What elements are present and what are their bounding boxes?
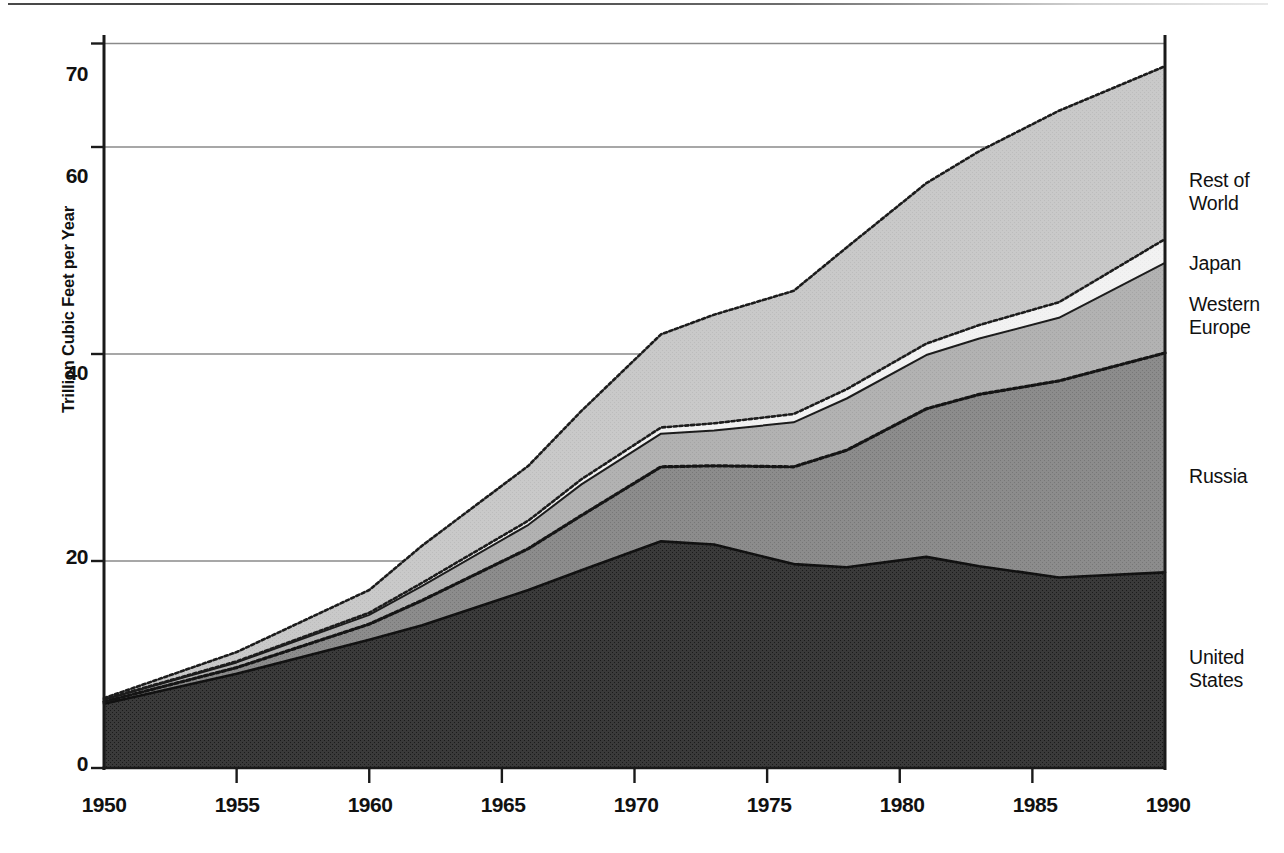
x-tick-label-1975: 1975 [724,793,814,817]
y-tick-label-60: 60 [28,164,88,188]
stacked-areas [104,66,1165,768]
x-tick-label-1960: 1960 [325,793,415,817]
x-tick-label-1980: 1980 [857,793,947,817]
x-tick-label-1950: 1950 [59,793,149,817]
chart-page: Trillion Cubic Feet per Year 70 60 40 20… [0,0,1284,853]
stacked-area-chart: Trillion Cubic Feet per Year 70 60 40 20… [0,0,1284,853]
series-label-united-states: United States [1189,646,1244,692]
x-tick-label-1985: 1985 [990,793,1080,817]
series-label-russia: Russia [1189,465,1247,488]
y-axis-title: Trillion Cubic Feet per Year [59,180,78,440]
y-tick-label-70: 70 [28,62,88,86]
y-tick-label-40: 40 [28,361,88,385]
series-label-japan: Japan [1189,252,1241,275]
y-tick-label-0: 0 [28,752,88,776]
y-tick-label-20: 20 [28,545,88,569]
x-tick-label-1970: 1970 [591,793,681,817]
plot-canvas [0,0,1284,853]
x-tick-label-1955: 1955 [192,793,282,817]
series-label-western-europe: Western Europe [1189,293,1260,339]
x-tick-label-1990: 1990 [1123,793,1213,817]
x-tick-label-1965: 1965 [458,793,548,817]
series-label-rest-of-world: Rest of World [1189,169,1249,215]
